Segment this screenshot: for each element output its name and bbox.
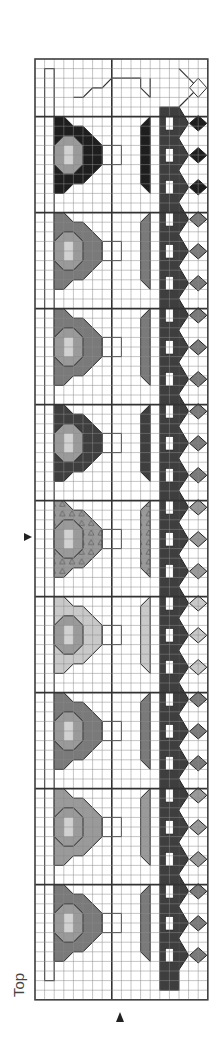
- knitting-chart: [0, 0, 224, 1047]
- col-marker-arrow: [116, 1012, 124, 1022]
- left-border-stripe: [45, 69, 55, 981]
- orientation-label: Top: [9, 970, 29, 1000]
- row-marker-arrow: [24, 533, 32, 541]
